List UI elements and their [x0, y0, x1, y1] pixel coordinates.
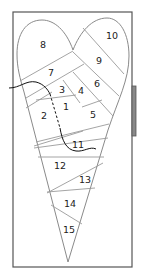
pattern-diagram: 8 10 9 7 6 3 4 1 2 5 11 12 13 14 15 [0, 0, 144, 277]
piece-label-5: 5 [90, 109, 96, 120]
side-tab[interactable] [132, 86, 136, 136]
piece-label-9: 9 [96, 55, 102, 66]
piece-label-6: 6 [94, 78, 100, 89]
piece-label-14: 14 [64, 198, 76, 209]
piece-label-8: 8 [40, 39, 46, 50]
piece-label-15: 15 [63, 224, 75, 235]
piece-label-13: 13 [79, 174, 91, 185]
piece-label-10: 10 [106, 30, 118, 41]
piece-label-4: 4 [78, 85, 84, 96]
piece-label-12: 12 [54, 160, 66, 171]
piece-label-7: 7 [48, 67, 54, 78]
piece-label-3: 3 [59, 84, 65, 95]
piece-label-1: 1 [63, 101, 69, 112]
piece-label-11: 11 [72, 139, 84, 150]
piece-label-2: 2 [41, 110, 47, 121]
